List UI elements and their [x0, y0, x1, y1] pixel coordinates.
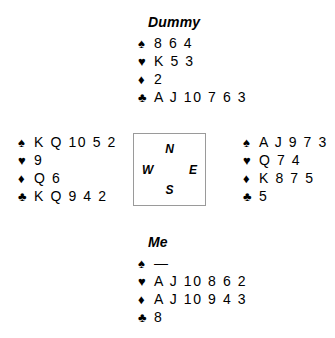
hand-west-clubs-row: ♣ K Q 9 4 2 [18, 187, 117, 205]
club-icon: ♣ [243, 188, 259, 206]
hand-west-clubs: K Q 9 4 2 [34, 187, 108, 205]
hand-north-clubs-row: ♣ A J 10 7 6 3 [138, 88, 247, 106]
compass-east-label: E [189, 164, 197, 176]
hand-north-hearts-row: ♥ K 5 3 [138, 52, 247, 70]
hand-west-diamonds: Q 6 [34, 169, 61, 187]
compass-south-label: S [165, 184, 173, 196]
hand-west-hearts-row: ♥ 9 [18, 151, 117, 169]
hand-east: ♠ A J 9 7 3 ♥ Q 7 4 ♦ K 8 7 5 ♣ 5 [243, 133, 328, 205]
spade-icon: ♠ [18, 134, 34, 152]
hand-north-diamonds: 2 [154, 70, 163, 88]
hand-west: ♠ K Q 10 5 2 ♥ 9 ♦ Q 6 ♣ K Q 9 4 2 [18, 133, 117, 205]
hand-south-clubs: 8 [154, 308, 163, 326]
hand-south-diamonds-row: ♦ A J 10 9 4 3 [138, 290, 247, 308]
club-icon: ♣ [138, 89, 154, 107]
spade-icon: ♠ [243, 134, 259, 152]
hand-east-hearts-row: ♥ Q 7 4 [243, 151, 328, 169]
hand-north-label: Dummy [148, 14, 247, 30]
diamond-icon: ♦ [138, 71, 154, 89]
hand-north: Dummy ♠ 8 6 4 ♥ K 5 3 ♦ 2 ♣ A J 10 7 6 3 [138, 14, 247, 106]
hand-north-spades: 8 6 4 [154, 34, 193, 52]
hand-west-spades-row: ♠ K Q 10 5 2 [18, 133, 117, 151]
hand-east-clubs: 5 [259, 187, 268, 205]
heart-icon: ♥ [138, 53, 154, 71]
spade-icon: ♠ [138, 255, 154, 273]
compass-north-label: N [165, 143, 174, 155]
heart-icon: ♥ [138, 273, 154, 291]
diamond-icon: ♦ [138, 291, 154, 309]
hand-south: Me ♠ — ♥ A J 10 8 6 2 ♦ A J 10 9 4 3 ♣ 8 [138, 234, 247, 326]
compass-box: N W E S [133, 133, 206, 206]
hand-east-diamonds-row: ♦ K 8 7 5 [243, 169, 328, 187]
hand-south-spades: — [154, 254, 170, 272]
hand-east-spades: A J 9 7 3 [259, 133, 328, 151]
hand-north-diamonds-row: ♦ 2 [138, 70, 247, 88]
club-icon: ♣ [18, 188, 34, 206]
hand-south-spades-row: ♠ — [138, 254, 247, 272]
hand-east-diamonds: K 8 7 5 [259, 169, 315, 187]
hand-north-spades-row: ♠ 8 6 4 [138, 34, 247, 52]
hand-north-clubs: A J 10 7 6 3 [154, 88, 247, 106]
hand-west-diamonds-row: ♦ Q 6 [18, 169, 117, 187]
hand-west-hearts: 9 [34, 151, 43, 169]
club-icon: ♣ [138, 309, 154, 327]
bridge-deal-diagram: Dummy ♠ 8 6 4 ♥ K 5 3 ♦ 2 ♣ A J 10 7 6 3… [0, 0, 335, 338]
diamond-icon: ♦ [243, 170, 259, 188]
hand-east-clubs-row: ♣ 5 [243, 187, 328, 205]
hand-north-hearts: K 5 3 [154, 52, 195, 70]
heart-icon: ♥ [18, 152, 34, 170]
hand-south-clubs-row: ♣ 8 [138, 308, 247, 326]
compass-west-label: W [142, 164, 153, 176]
hand-south-diamonds: A J 10 9 4 3 [154, 290, 247, 308]
spade-icon: ♠ [138, 35, 154, 53]
hand-south-hearts: A J 10 8 6 2 [154, 272, 247, 290]
hand-east-spades-row: ♠ A J 9 7 3 [243, 133, 328, 151]
hand-south-label: Me [148, 234, 247, 250]
hand-east-hearts: Q 7 4 [259, 151, 301, 169]
hand-west-spades: K Q 10 5 2 [34, 133, 117, 151]
diamond-icon: ♦ [18, 170, 34, 188]
heart-icon: ♥ [243, 152, 259, 170]
hand-south-hearts-row: ♥ A J 10 8 6 2 [138, 272, 247, 290]
